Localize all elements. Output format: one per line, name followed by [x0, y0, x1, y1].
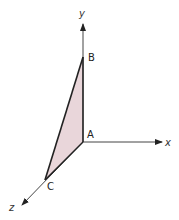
z-axis-label: z — [8, 202, 15, 213]
point-b-label: B — [88, 52, 95, 63]
diagram-canvas: y x z B A C — [0, 0, 179, 220]
point-a-label: A — [87, 129, 94, 140]
point-c-label: C — [47, 181, 54, 192]
x-axis-label: x — [164, 137, 171, 148]
y-axis-label: y — [78, 8, 86, 19]
